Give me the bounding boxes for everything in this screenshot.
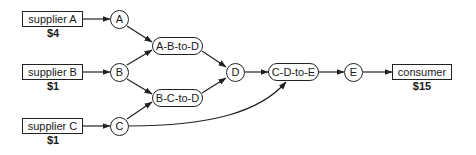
supplier-c-price: $1 <box>38 134 68 146</box>
transformer-c-d-to-e: C-D-to-E <box>268 63 319 81</box>
good-d-node: D <box>226 63 245 82</box>
good-a-node: A <box>110 10 129 29</box>
edge-b-to-bcd <box>127 79 152 94</box>
edge-b-to-abd <box>127 50 152 65</box>
consumer-price: $15 <box>407 80 437 92</box>
consumer-node: consumer <box>392 64 452 80</box>
edge-abd-to-d <box>202 51 226 67</box>
edge-bcd-to-d <box>202 78 226 93</box>
good-b-node: B <box>110 63 129 82</box>
good-e-node: E <box>344 63 363 82</box>
supplier-c-node: supplier C <box>22 118 83 134</box>
transformer-b-c-to-d: B-C-to-D <box>152 89 203 107</box>
edge-c-to-bcd <box>127 102 152 119</box>
supplier-b-price: $1 <box>38 80 68 92</box>
supplier-a-price: $4 <box>38 27 68 39</box>
supplier-a-node: supplier A <box>22 11 83 27</box>
transformer-a-b-to-d: A-B-to-D <box>152 37 203 55</box>
supplier-b-node: supplier B <box>22 64 83 80</box>
edge-c-to-cde <box>129 82 286 126</box>
edge-a-to-abd <box>127 26 152 42</box>
good-c-node: C <box>110 117 129 136</box>
